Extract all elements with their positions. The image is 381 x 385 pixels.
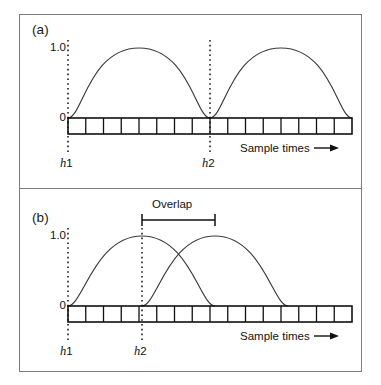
panel-a-curve-2 [210, 48, 352, 118]
panel-a: (a) 1.0 0 h1 h2 Sample times [0, 0, 381, 188]
panel-a-curve-1 [68, 48, 210, 118]
panel-a-plot [0, 0, 381, 188]
panel-b-curve-2 [142, 236, 288, 306]
panel-b-sample-grid [68, 306, 352, 322]
panel-b: (b) 1.0 0 Overlap h1 h2 Sample times [0, 188, 381, 385]
figure-root: (a) 1.0 0 h1 h2 Sample times [0, 0, 381, 385]
panel-b-overlap-bracket [142, 214, 215, 226]
panel-b-plot [0, 188, 381, 385]
